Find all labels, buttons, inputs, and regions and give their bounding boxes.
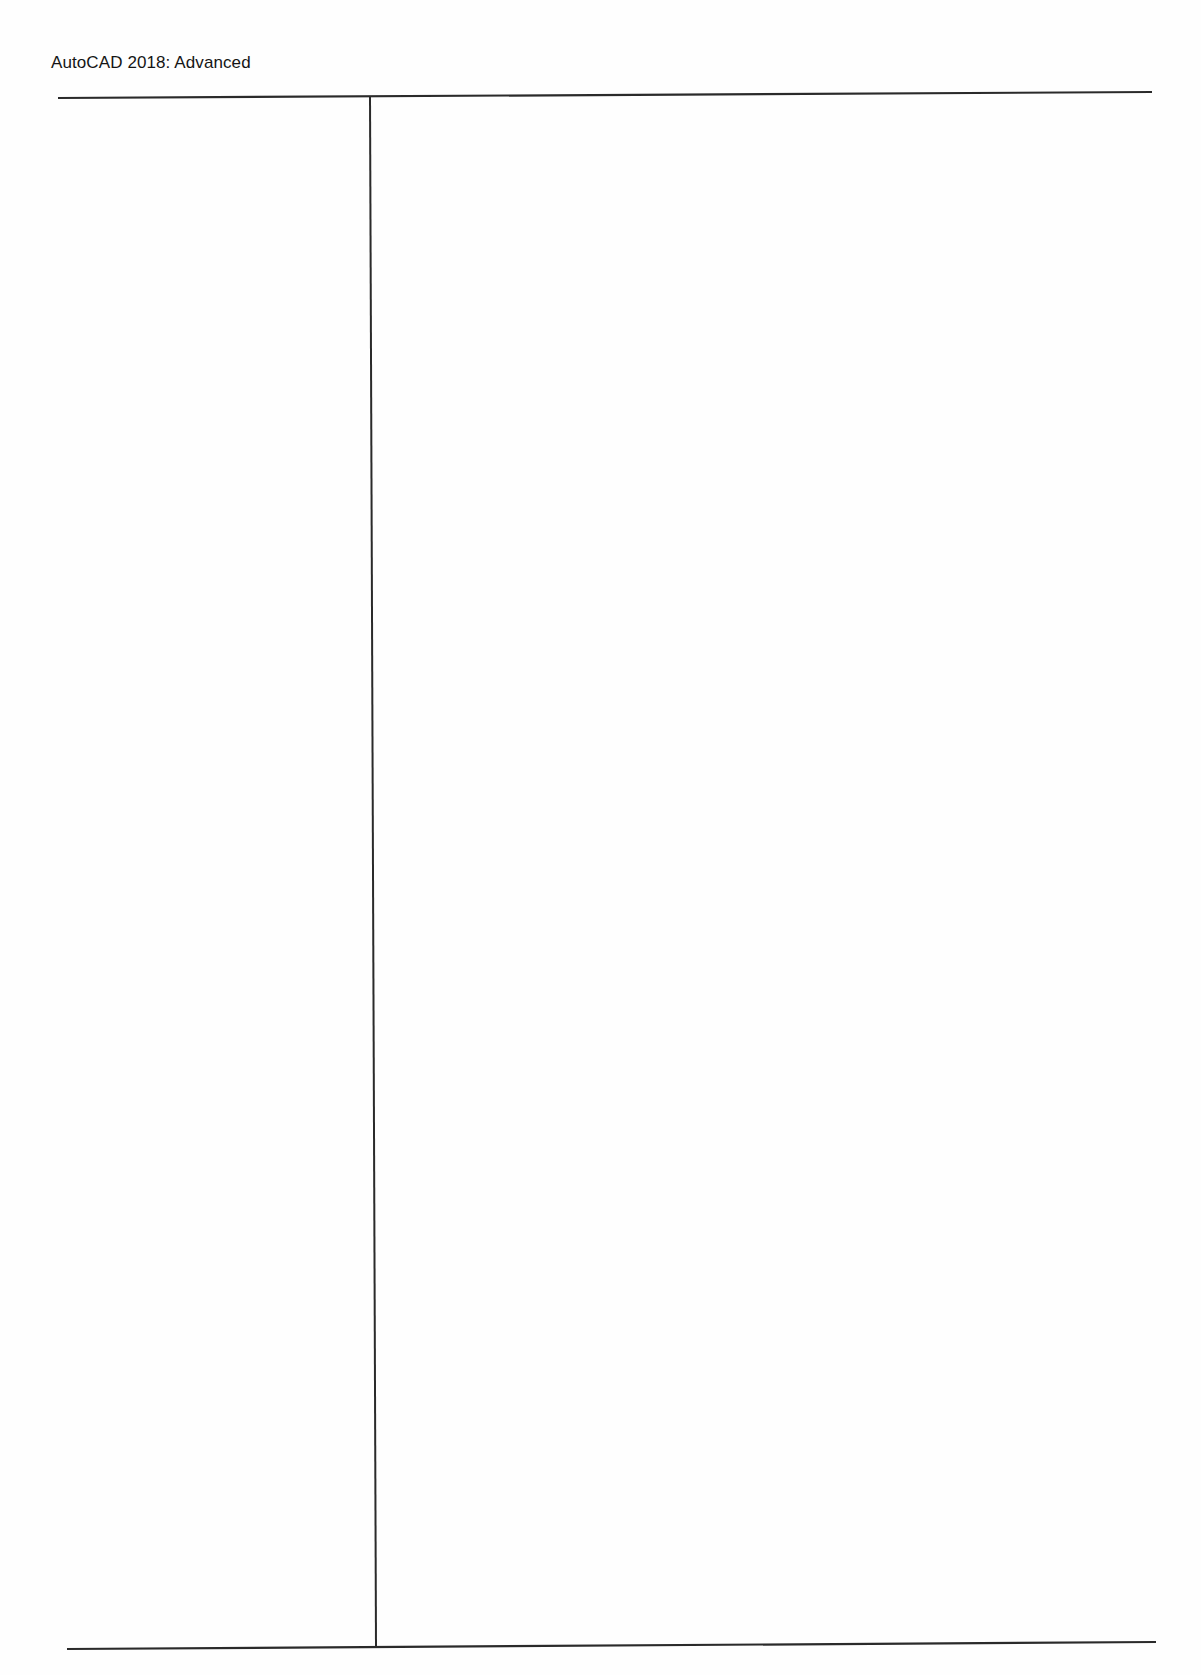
bottom-rule [67, 1642, 1156, 1649]
document-page: AutoCAD 2018: Advanced [0, 0, 1201, 1675]
notes-right-column [376, 98, 1152, 1642]
notes-left-column [60, 100, 368, 1642]
